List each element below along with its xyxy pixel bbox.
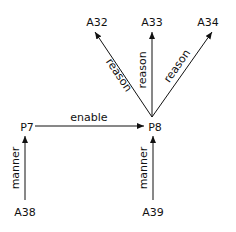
edge-label-manner-left: manner bbox=[9, 146, 22, 189]
edge-label-reason-a33: reason bbox=[136, 51, 149, 88]
node-a39: A39 bbox=[142, 206, 164, 219]
node-a32: A32 bbox=[86, 16, 108, 29]
node-a33: A33 bbox=[141, 16, 163, 29]
node-p8: P8 bbox=[148, 121, 162, 134]
edge-p8-a34 bbox=[152, 32, 212, 117]
node-a34: A34 bbox=[197, 16, 219, 29]
node-a38: A38 bbox=[14, 206, 36, 219]
node-p7: P7 bbox=[20, 121, 34, 134]
edge-label-reason-a32: reason bbox=[103, 56, 135, 94]
diagram-svg: reason reason reason enable manner manne… bbox=[0, 0, 236, 232]
edge-label-enable: enable bbox=[70, 111, 108, 124]
diagram-canvas: reason reason reason enable manner manne… bbox=[0, 0, 236, 232]
edge-label-manner-right: manner bbox=[137, 146, 150, 189]
